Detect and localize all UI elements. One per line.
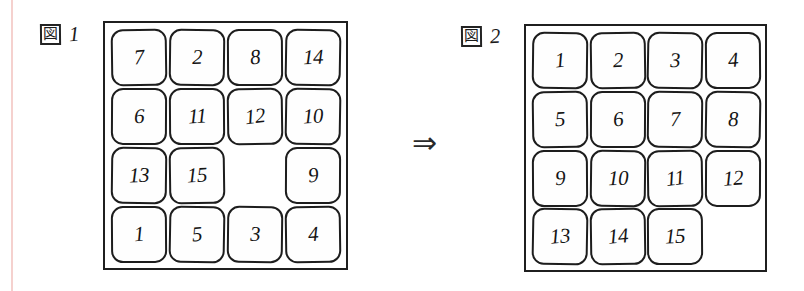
tile[interactable]: 15 xyxy=(169,147,226,205)
tile-blank[interactable] xyxy=(227,147,283,204)
tile[interactable]: 5 xyxy=(169,206,226,264)
tile[interactable]: 1 xyxy=(111,206,167,263)
tile[interactable]: 9 xyxy=(532,149,588,206)
tile[interactable]: 15 xyxy=(647,208,703,265)
tile[interactable]: 2 xyxy=(589,32,645,90)
figure-kanji-icon: 図 xyxy=(461,26,482,47)
tile[interactable]: 7 xyxy=(111,29,168,87)
tile[interactable]: 7 xyxy=(647,90,703,147)
tile-grid-figure-2: 1 2 3 4 5 6 7 8 9 10 11 12 13 14 15 xyxy=(532,32,760,265)
tile[interactable]: 1 xyxy=(532,32,588,89)
puzzle-board-figure-1: 7 2 8 14 6 11 12 10 13 15 9 1 5 3 4 xyxy=(103,21,348,270)
tile[interactable]: 3 xyxy=(647,32,703,90)
tile[interactable]: 12 xyxy=(227,88,284,146)
tile[interactable]: 4 xyxy=(285,206,342,264)
tile[interactable]: 12 xyxy=(704,149,760,206)
tile[interactable]: 13 xyxy=(532,208,588,266)
tile[interactable]: 13 xyxy=(111,147,168,205)
figure-1-label: 図 1 xyxy=(40,22,80,47)
tile[interactable]: 9 xyxy=(285,147,341,204)
figure-2-label: 図 2 xyxy=(461,24,501,49)
figure-kanji-icon: 図 xyxy=(40,24,61,45)
figure-1-number: 1 xyxy=(68,22,80,48)
figure-2-number: 2 xyxy=(489,24,501,50)
tile[interactable]: 8 xyxy=(704,90,760,148)
tile-grid-figure-1: 7 2 8 14 6 11 12 10 13 15 9 1 5 3 4 xyxy=(111,29,341,263)
tile-blank[interactable] xyxy=(705,208,761,265)
tile[interactable]: 10 xyxy=(589,149,645,206)
tile[interactable]: 8 xyxy=(227,29,283,86)
tile[interactable]: 14 xyxy=(285,29,342,87)
tile[interactable]: 2 xyxy=(169,29,226,87)
tile[interactable]: 11 xyxy=(169,88,225,145)
puzzle-board-figure-2: 1 2 3 4 5 6 7 8 9 10 11 12 13 14 15 xyxy=(524,24,767,272)
notebook-margin-rule xyxy=(11,0,13,291)
tile[interactable]: 14 xyxy=(589,208,645,266)
tile[interactable]: 11 xyxy=(647,149,703,207)
double-right-arrow-icon: ⇒ xyxy=(412,128,437,158)
tile[interactable]: 4 xyxy=(704,32,760,89)
tile[interactable]: 5 xyxy=(532,90,588,148)
tile[interactable]: 6 xyxy=(111,88,167,145)
tile[interactable]: 6 xyxy=(589,91,645,148)
tile[interactable]: 10 xyxy=(285,88,342,146)
tile[interactable]: 3 xyxy=(227,206,284,264)
